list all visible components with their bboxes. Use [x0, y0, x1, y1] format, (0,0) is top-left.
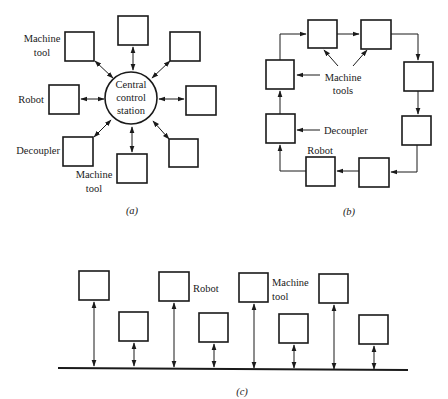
label-machine-tool-bottom-2: tool	[86, 183, 102, 194]
label-decoupler: Decoupler	[16, 145, 60, 156]
link-lower-left	[94, 120, 111, 137]
label-machine-tools-2: tools	[333, 85, 353, 96]
caption-c: (c)	[236, 386, 248, 398]
station-right-lower	[402, 116, 431, 145]
station-top	[118, 16, 148, 45]
station-lower-right	[169, 139, 198, 167]
label-machine-tool-bottom-1: Machine	[76, 169, 113, 180]
label-decoupler: Decoupler	[324, 125, 368, 136]
label-machine-tool-1: Machine	[272, 277, 309, 288]
station-robot	[49, 85, 79, 114]
station-robot	[306, 157, 335, 186]
flow-top2-to-right-upper	[391, 34, 418, 60]
station-4	[199, 313, 228, 342]
label-machine-tool-top-1: Machine	[24, 33, 61, 44]
flow-left-top-to-top1	[280, 34, 306, 60]
station-5-machine-tool	[239, 273, 268, 302]
station-machine-tool-top-2	[361, 20, 391, 49]
station-right-upper	[404, 62, 433, 91]
station-3-robot	[159, 272, 189, 301]
caption-a: (a)	[126, 205, 139, 217]
station-6	[279, 314, 308, 343]
caption-b: (b)	[343, 206, 356, 218]
station-machine-tool-upper-left	[65, 32, 94, 61]
station-8	[359, 315, 388, 344]
station-decoupler	[63, 137, 93, 166]
center-label-line-1: Central	[116, 79, 147, 90]
station-decoupler	[266, 114, 295, 143]
flow-right-lower-to-bottom-right	[391, 145, 417, 172]
station-bottom-right	[359, 158, 389, 187]
pointer-machine-tools-to-top2	[353, 50, 367, 66]
label-robot: Robot	[307, 145, 333, 156]
center-label-line-3: station	[117, 105, 146, 116]
center-label-line-2: control	[116, 92, 146, 103]
flow-robot-to-decoupler	[280, 145, 306, 171]
link-lower-right	[153, 121, 169, 139]
label-machine-tool-top-2: tool	[34, 47, 50, 58]
station-7	[319, 274, 348, 303]
diagram-a-centralized: Central control station Machine tool Rob…	[16, 16, 216, 217]
station-machine-tool-left	[266, 60, 294, 89]
label-machine-tool-2: tool	[272, 291, 288, 302]
station-machine-tool-bottom	[117, 154, 147, 183]
link-upper-left	[95, 61, 113, 78]
link-upper-right	[152, 61, 170, 78]
station-2	[119, 312, 148, 341]
station-1	[79, 271, 109, 300]
pointer-machine-tools-to-top1	[324, 50, 338, 66]
bus-line	[58, 368, 408, 370]
diagram-c-bus: Robot Machine tool (c)	[58, 271, 408, 398]
label-machine-tools-1: Machine	[325, 72, 362, 83]
diagram-b-loop: Machine tools Decoupler Robot (b)	[266, 20, 433, 218]
station-upper-right	[170, 32, 200, 61]
label-robot: Robot	[18, 94, 44, 105]
station-machine-tool-top-1	[308, 20, 337, 48]
label-robot: Robot	[193, 283, 219, 294]
station-right	[186, 86, 216, 115]
